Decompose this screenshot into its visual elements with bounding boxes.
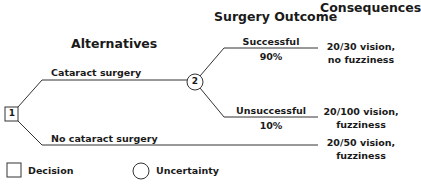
legend-uncertainty-label: Uncertainty: [156, 165, 219, 176]
heading-alternatives: Alternatives: [71, 36, 157, 51]
branch-cataract-surgery-line: [18, 80, 187, 107]
consequence-successful-line1: 20/30 vision,: [322, 41, 400, 52]
legend-decision-label: Decision: [28, 165, 73, 176]
branch-label-no-cataract-surgery: No cataract surgery: [51, 133, 158, 144]
probability-unsuccessful: 10%: [236, 120, 306, 131]
consequence-unsuccessful-line1: 20/100 vision,: [322, 106, 400, 117]
probability-successful: 90%: [236, 51, 306, 62]
consequence-no-surgery-line1: 20/50 vision,: [322, 137, 400, 148]
branch-label-cataract-surgery: Cataract surgery: [51, 67, 141, 78]
heading-consequences: Consequences: [320, 0, 421, 15]
consequence-unsuccessful-line2: fuzziness: [322, 119, 400, 130]
legend-uncertainty-circle-icon: [133, 163, 149, 179]
branch-label-successful: Successful: [236, 36, 306, 47]
decision-node-label: 1: [8, 108, 16, 118]
uncertainty-node-label: 2: [189, 76, 201, 86]
legend-decision-square-icon: [7, 163, 21, 177]
consequence-successful-line2: no fuzziness: [322, 54, 400, 65]
consequence-no-surgery-line2: fuzziness: [322, 150, 400, 161]
heading-surgery-outcome: Surgery Outcome: [214, 9, 337, 24]
branch-label-unsuccessful: Unsuccessful: [236, 105, 306, 116]
